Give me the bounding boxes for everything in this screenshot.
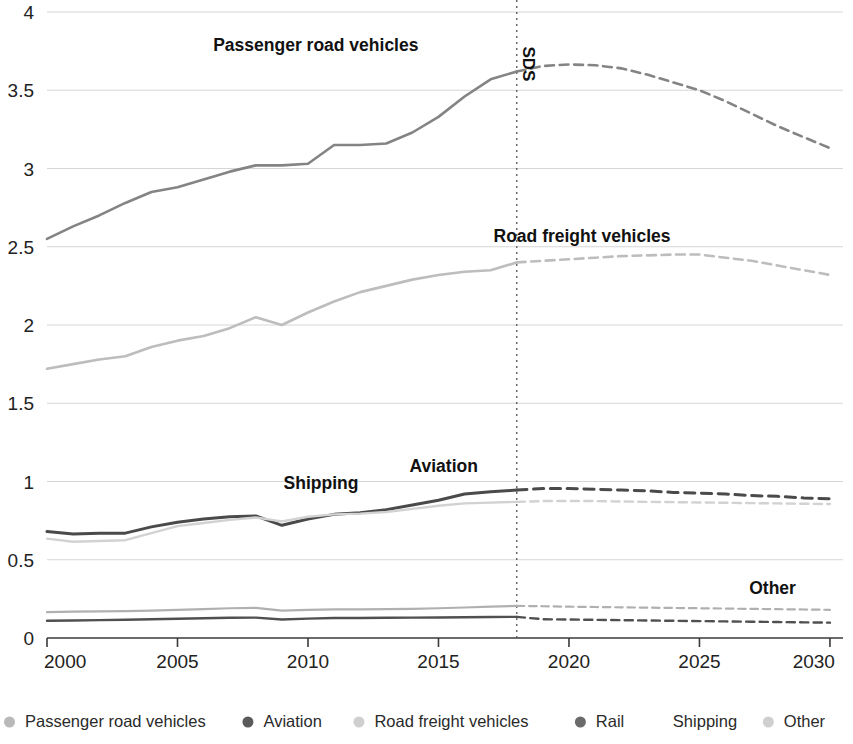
series-line-historical-rail — [47, 617, 517, 621]
gridlines-group — [47, 12, 843, 560]
series-line-projected-shipping — [517, 501, 830, 504]
x-tick-label-2015: 2015 — [417, 651, 459, 672]
legend-label-rail[interactable]: Rail — [596, 712, 624, 730]
chart-canvas: 00.511.522.533.54 2000200520102015202020… — [0, 0, 853, 744]
series-line-projected-aviation — [517, 489, 830, 499]
legend-marker-road-freight-vehicles[interactable] — [353, 717, 364, 728]
y-tick-label-2: 2 — [23, 315, 34, 336]
legend-label-shipping[interactable]: Shipping — [673, 712, 737, 730]
x-tick-label-2000: 2000 — [44, 651, 86, 672]
x-tick-label-2010: 2010 — [287, 651, 329, 672]
series-line-projected-road-freight-vehicles — [517, 255, 830, 275]
x-tick-label-2030: 2030 — [793, 651, 835, 672]
x-axis-tick-labels: 2000200520102015202020252030 — [44, 651, 835, 672]
series-line-historical-other — [47, 606, 517, 612]
legend-marker-other[interactable] — [763, 717, 774, 728]
legend-marker-shipping[interactable] — [652, 717, 663, 728]
legend-label-passenger-road-vehicles[interactable]: Passenger road vehicles — [25, 712, 206, 730]
y-tick-label-4: 4 — [23, 2, 34, 23]
series-line-historical-passenger-road-vehicles — [47, 71, 517, 238]
legend-marker-rail[interactable] — [575, 717, 586, 728]
series-lines-group — [47, 64, 830, 622]
series-line-projected-other — [517, 606, 830, 610]
series-line-projected-passenger-road-vehicles — [517, 64, 830, 148]
y-tick-label-0: 0 — [23, 628, 34, 649]
y-tick-label-1: 1 — [23, 472, 34, 493]
series-line-projected-rail — [517, 617, 830, 623]
legend-marker-passenger-road-vehicles[interactable] — [4, 717, 15, 728]
x-tick-label-2020: 2020 — [548, 651, 590, 672]
series-line-historical-aviation — [47, 490, 517, 534]
y-tick-label-3: 3 — [23, 159, 34, 180]
annotation-sds: SDS — [519, 46, 538, 81]
y-tick-label-1.5: 1.5 — [8, 393, 34, 414]
legend-marker-aviation[interactable] — [242, 717, 253, 728]
legend-label-road-freight-vehicles[interactable]: Road freight vehicles — [374, 712, 528, 730]
legend-label-other[interactable]: Other — [784, 712, 826, 730]
series-line-historical-road-freight-vehicles — [47, 262, 517, 368]
y-tick-label-0.5: 0.5 — [8, 550, 34, 571]
legend-label-aviation[interactable]: Aviation — [263, 712, 321, 730]
y-tick-label-2.5: 2.5 — [8, 237, 34, 258]
annotation-shipping: Shipping — [284, 473, 359, 493]
annotation-aviation: Aviation — [409, 456, 477, 476]
y-axis-tick-labels: 00.511.522.533.54 — [8, 2, 35, 649]
annotation-passenger-road-vehicles: Passenger road vehicles — [213, 35, 419, 55]
annotation-other: Other — [749, 578, 796, 598]
legend[interactable]: Passenger road vehiclesAviationRoad frei… — [4, 712, 826, 730]
y-tick-label-3.5: 3.5 — [8, 80, 34, 101]
annotation-road-freight-vehicles: Road freight vehicles — [494, 226, 671, 246]
x-axis — [47, 638, 843, 647]
transport-emissions-chart: 00.511.522.533.54 2000200520102015202020… — [0, 0, 853, 744]
x-tick-label-2025: 2025 — [678, 651, 720, 672]
series-line-historical-shipping — [47, 502, 517, 542]
x-tick-label-2005: 2005 — [156, 651, 198, 672]
